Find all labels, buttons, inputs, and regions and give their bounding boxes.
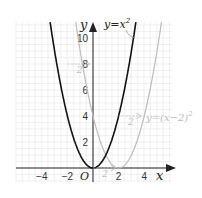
base-curve-label: y=x [103,18,126,31]
svg-text:y=x2: y=x2 [103,17,131,31]
label-base-curve: y=x2 [103,17,135,38]
y-tick-label: 4 [82,111,88,122]
shifted-curve-exponent: 2 [187,110,193,118]
label-shifted-curve: y=(x−2)2 [145,110,193,123]
y-axis-arrow-icon [89,22,97,32]
axes [16,22,176,182]
shift-amount-label: 2 [76,65,83,75]
parabola-diagram: −4−224246810 222 y x O y=x2 y=(x−2)2 [0,0,202,198]
y-tick-label: 2 [82,137,88,148]
y-axis-label: y [79,17,88,32]
shifted-curve-label: y=(x−2) [145,112,188,123]
shift-amount-label: 2 [127,117,134,127]
svg-text:y=(x−2)2: y=(x−2)2 [145,110,193,123]
base-curve-exponent: 2 [125,17,131,25]
x-axis-label: x [156,168,164,183]
x-tick-label: 2 [116,171,122,182]
x-tick-label: −2 [62,171,74,182]
shift-amount-label: 2 [101,169,108,179]
origin-label: O [80,170,89,183]
x-tick-label: −4 [36,171,48,182]
x-tick-label: 4 [141,171,147,182]
x-axis-arrow-icon [166,164,176,172]
grid [16,22,172,182]
